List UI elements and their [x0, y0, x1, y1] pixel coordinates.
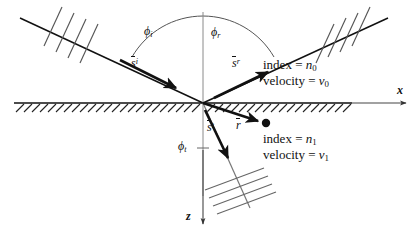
reflected-vector-label: sr — [232, 57, 240, 71]
transmitted-wavefronts — [205, 168, 276, 214]
interface-hatching — [16, 104, 351, 112]
incident-ray-line — [20, 18, 203, 103]
interface-group — [14, 103, 352, 112]
z-axis-label: z — [186, 210, 191, 223]
lower-index-row: index = n1 — [263, 132, 329, 148]
upper-index-row: index = n0 — [263, 58, 329, 74]
transmitted-vector-label: st — [207, 121, 214, 135]
incident-ray-group — [20, 7, 203, 103]
incident-wavefronts — [44, 7, 98, 63]
reflected-angle-label: ϕr — [211, 26, 220, 40]
reflected-vector-arrow — [214, 72, 268, 98]
incident-angle-label: ϕi — [144, 25, 153, 39]
incident-vector-arrow — [120, 60, 176, 88]
transmitted-angle-label: ϕt — [178, 140, 187, 154]
optics-interface-diagram — [0, 0, 414, 235]
position-vector-label: r — [236, 119, 241, 132]
field-point-dot — [262, 119, 270, 127]
upper-velocity-row: velocity = v0 — [263, 74, 329, 90]
reflected-wavefronts — [316, 7, 370, 63]
lower-medium-properties: index = n1 velocity = v1 — [263, 132, 329, 164]
upper-medium-properties: index = n0 velocity = v0 — [263, 58, 329, 90]
x-axis-label: x — [397, 84, 403, 97]
position-vector-arrow — [203, 103, 258, 121]
incident-vector-label: si — [131, 57, 138, 71]
lower-velocity-row: velocity = v1 — [263, 148, 329, 164]
